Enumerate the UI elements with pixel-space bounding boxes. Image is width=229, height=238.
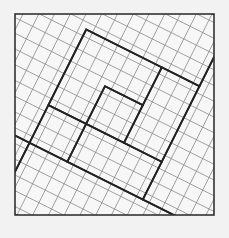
grid-diagram bbox=[0, 0, 229, 238]
diagram-svg bbox=[0, 0, 229, 238]
